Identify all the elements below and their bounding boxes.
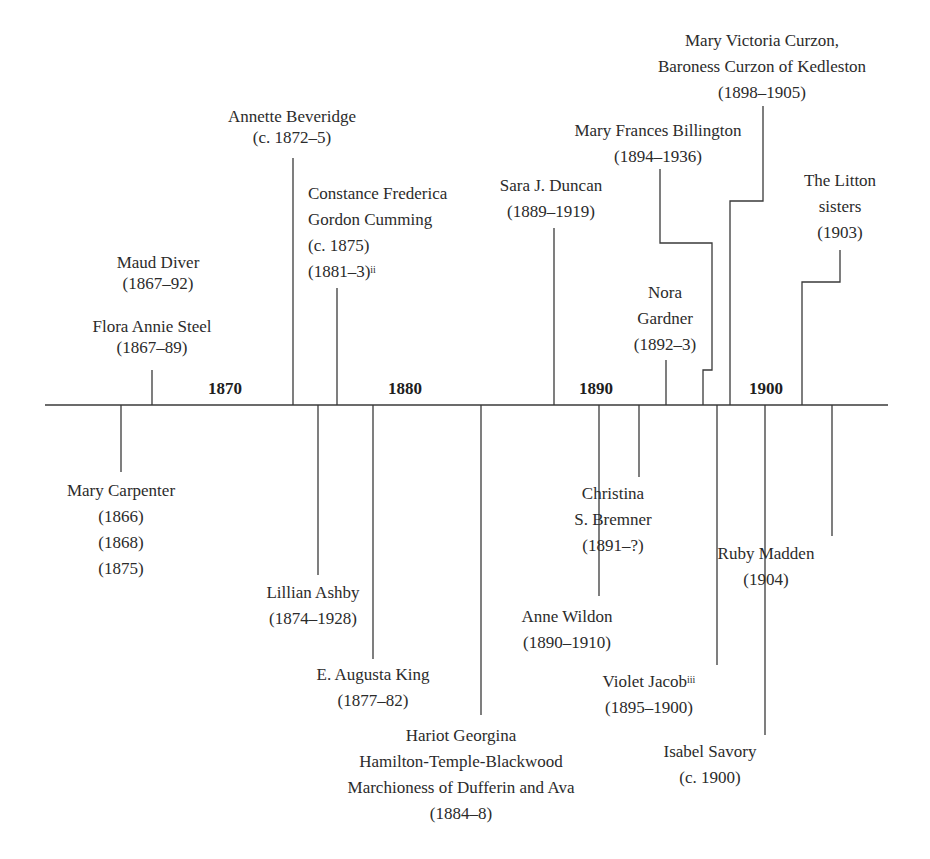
entry-mary-victoria-curzon: Mary Victoria Curzon, Baroness Curzon of… bbox=[658, 28, 866, 106]
decade-label-1880: 1880 bbox=[388, 379, 422, 399]
entry-name: Flora Annie Steel bbox=[93, 316, 212, 337]
entry-name-row: Violet Jacobiii bbox=[603, 669, 696, 695]
entry-dates: (1898–1905) bbox=[658, 80, 866, 106]
entry-constance-gordon-cumming: Constance Frederica Gordon Cumming (c. 1… bbox=[308, 181, 447, 285]
entry-name: Isabel Savory bbox=[663, 739, 756, 765]
entry-name-line2: sisters bbox=[804, 194, 876, 220]
decade-label-1900: 1900 bbox=[749, 379, 783, 399]
entry-dates-3: (1875) bbox=[67, 556, 175, 582]
entry-lillian-ashby: Lillian Ashby (1874–1928) bbox=[266, 580, 359, 632]
entry-annette-beveridge: Annette Beveridge (c. 1872–5) bbox=[228, 106, 356, 148]
entry-name: Anne Wildon bbox=[521, 604, 612, 630]
entry-dates: (1890–1910) bbox=[521, 630, 612, 656]
entry-name: Violet Jacob bbox=[603, 672, 687, 691]
entry-name-line1: Constance Frederica bbox=[308, 181, 447, 207]
entry-e-augusta-king: E. Augusta King (1877–82) bbox=[317, 662, 430, 714]
entry-dates-2: (1868) bbox=[67, 530, 175, 556]
connector-litton-sisters bbox=[802, 250, 840, 405]
entry-name-line1: The Litton bbox=[804, 168, 876, 194]
entry-dates-2: (1881–3) bbox=[308, 262, 370, 281]
entry-dates: (1877–82) bbox=[317, 688, 430, 714]
entry-name: Lillian Ashby bbox=[266, 580, 359, 606]
entry-mary-frances-billington: Mary Frances Billington (1894–1936) bbox=[574, 118, 741, 170]
entry-name-line2: Hamilton-Temple-Blackwood bbox=[348, 749, 575, 775]
entry-anne-wildon: Anne Wildon (1890–1910) bbox=[521, 604, 612, 656]
entry-name-line1: Nora bbox=[634, 280, 696, 306]
entry-dates-1: (1866) bbox=[67, 504, 175, 530]
timeline-diagram: 1870 1880 1890 1900 Maud Diver (1867–92)… bbox=[0, 0, 930, 859]
entry-name: Annette Beveridge bbox=[228, 106, 356, 127]
decade-label-1870: 1870 bbox=[208, 379, 242, 399]
entry-dates-2-row: (1881–3)ii bbox=[308, 259, 447, 285]
decade-label-1890: 1890 bbox=[579, 379, 613, 399]
entry-dates: (1892–3) bbox=[634, 332, 696, 358]
entry-name-line1: Christina bbox=[574, 481, 651, 507]
entry-name: Ruby Madden bbox=[718, 541, 815, 567]
entry-dates: (1891–?) bbox=[574, 533, 651, 559]
entry-name-line1: Mary Victoria Curzon, bbox=[658, 28, 866, 54]
footnote-marker: ii bbox=[370, 264, 376, 275]
entry-nora-gardner: Nora Gardner (1892–3) bbox=[634, 280, 696, 358]
entry-mary-carpenter: Mary Carpenter (1866) (1868) (1875) bbox=[67, 478, 175, 582]
entry-dates: (1904) bbox=[718, 567, 815, 593]
entry-maud-diver: Maud Diver (1867–92) bbox=[117, 252, 200, 294]
entry-name: Maud Diver bbox=[117, 252, 200, 273]
entry-dates: (1903) bbox=[804, 220, 876, 246]
entry-name: Sara J. Duncan bbox=[500, 173, 602, 199]
entry-dates-1: (c. 1875) bbox=[308, 233, 447, 259]
entry-name: E. Augusta King bbox=[317, 662, 430, 688]
entry-dates: (c. 1872–5) bbox=[228, 127, 356, 148]
footnote-marker: iii bbox=[687, 674, 695, 685]
entry-flora-annie-steel: Flora Annie Steel (1867–89) bbox=[93, 316, 212, 358]
entry-violet-jacob: Violet Jacobiii (1895–1900) bbox=[603, 669, 696, 721]
entry-dates: (1889–1919) bbox=[500, 199, 602, 225]
entry-ruby-madden: Ruby Madden (1904) bbox=[718, 541, 815, 593]
entry-dates: (c. 1900) bbox=[663, 765, 756, 791]
entry-name-line2: Baroness Curzon of Kedleston bbox=[658, 54, 866, 80]
entry-name-line2: S. Bremner bbox=[574, 507, 651, 533]
entry-dates: (1874–1928) bbox=[266, 606, 359, 632]
entry-name: Mary Frances Billington bbox=[574, 118, 741, 144]
entry-name-line1: Hariot Georgina bbox=[348, 723, 575, 749]
entry-hariot-hamilton-temple-blackwood: Hariot Georgina Hamilton-Temple-Blackwoo… bbox=[348, 723, 575, 827]
entry-dates: (1884–8) bbox=[348, 801, 575, 827]
entry-sara-duncan: Sara J. Duncan (1889–1919) bbox=[500, 173, 602, 225]
entry-name: Mary Carpenter bbox=[67, 478, 175, 504]
entry-dates: (1895–1900) bbox=[603, 695, 696, 721]
entry-name-line2: Gardner bbox=[634, 306, 696, 332]
entry-dates: (1867–89) bbox=[93, 337, 212, 358]
entry-dates: (1867–92) bbox=[117, 273, 200, 294]
entry-name-line2: Gordon Cumming bbox=[308, 207, 447, 233]
entry-isabel-savory: Isabel Savory (c. 1900) bbox=[663, 739, 756, 791]
entry-dates: (1894–1936) bbox=[574, 144, 741, 170]
entry-litton-sisters: The Litton sisters (1903) bbox=[804, 168, 876, 246]
entry-name-line3: Marchioness of Dufferin and Ava bbox=[348, 775, 575, 801]
entry-christina-bremner: Christina S. Bremner (1891–?) bbox=[574, 481, 651, 559]
